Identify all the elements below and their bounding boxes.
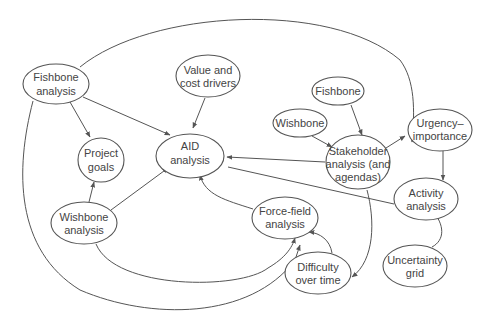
- svg-text:analysis: analysis: [170, 154, 210, 166]
- edge-stakeholder-to-urgency: [386, 136, 405, 148]
- edge-forcefield-to-aid: [200, 175, 253, 209]
- svg-text:analysis: analysis: [406, 200, 446, 212]
- svg-text:Project: Project: [84, 147, 118, 159]
- svg-text:AID: AID: [181, 140, 199, 152]
- svg-text:Force-field: Force-field: [259, 205, 311, 217]
- edge-value-cost-to-aid: [193, 98, 205, 128]
- svg-text:analysis: analysis: [64, 224, 104, 236]
- edge-fishbone-analysis-to-stakeholder: [80, 19, 414, 142]
- edge-fishbone-analysis-to-project-goals: [70, 102, 90, 137]
- edge-fishbone-to-stakeholder: [351, 105, 362, 135]
- svg-text:Fishbone: Fishbone: [33, 71, 78, 83]
- svg-text:Urgency–: Urgency–: [416, 117, 464, 129]
- svg-text:analysis: analysis: [265, 218, 305, 230]
- node-value-cost-drivers[interactable]: Value and cost drivers: [176, 55, 240, 97]
- node-wishbone-analysis[interactable]: Wishbone analysis: [51, 202, 117, 244]
- edge-stakeholder-to-aid: [227, 157, 325, 162]
- node-project-goals[interactable]: Project goals: [78, 138, 124, 182]
- svg-text:cost drivers: cost drivers: [180, 77, 237, 89]
- edge-wishbone-analysis-to-aid: [111, 168, 168, 210]
- diagram-canvas: Fishbone analysis Value and cost drivers…: [0, 0, 495, 323]
- node-aid-analysis[interactable]: AID analysis: [156, 134, 224, 178]
- edge-fishbone-analysis-to-aid: [83, 97, 170, 135]
- svg-text:analysis: analysis: [36, 85, 76, 97]
- svg-text:Uncertainty: Uncertainty: [387, 254, 443, 266]
- svg-text:Fishbone: Fishbone: [315, 85, 360, 97]
- node-uncertainty-grid[interactable]: Uncertainty grid: [383, 245, 447, 287]
- node-wishbone[interactable]: Wishbone: [273, 109, 327, 137]
- node-fishbone-analysis[interactable]: Fishbone analysis: [23, 64, 89, 104]
- svg-text:Value and: Value and: [184, 64, 233, 76]
- svg-text:Activity: Activity: [409, 187, 444, 199]
- svg-text:importance: importance: [413, 130, 467, 142]
- svg-text:over time: over time: [295, 274, 340, 286]
- node-activity-analysis[interactable]: Activity analysis: [394, 178, 458, 220]
- svg-text:grid: grid: [406, 267, 424, 279]
- svg-text:Stakeholder: Stakeholder: [329, 145, 388, 157]
- svg-text:Wishbone: Wishbone: [276, 117, 325, 129]
- edge-wishbone-analysis-to-forcefield: [96, 238, 295, 282]
- svg-text:Difficulty: Difficulty: [297, 261, 339, 273]
- svg-text:goals: goals: [88, 161, 115, 173]
- node-fishbone[interactable]: Fishbone: [312, 77, 364, 105]
- edge-wishbone-analysis-to-project-goals: [89, 182, 94, 202]
- svg-text:agendas): agendas): [335, 171, 381, 183]
- edge-stakeholder-to-difficulty: [352, 190, 372, 277]
- node-stakeholder-analysis[interactable]: Stakeholder analysis (and agendas): [326, 135, 391, 189]
- node-forcefield-analysis[interactable]: Force-field analysis: [252, 197, 318, 239]
- node-difficulty-over-time[interactable]: Difficulty over time: [285, 252, 351, 294]
- node-urgency-importance[interactable]: Urgency– importance: [408, 109, 472, 151]
- edge-difficulty-to-forcefield: [309, 232, 332, 253]
- svg-text:Wishbone: Wishbone: [60, 211, 109, 223]
- svg-text:analysis (and: analysis (and: [326, 158, 391, 170]
